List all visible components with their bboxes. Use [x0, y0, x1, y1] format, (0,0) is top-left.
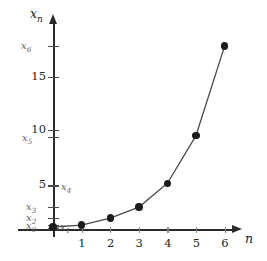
y-label-x1: x1	[60, 222, 70, 234]
data-point-5	[192, 132, 199, 139]
x-tick-5	[196, 227, 197, 233]
y-tick-x4	[48, 186, 59, 187]
y-label-x5-sub: 5	[28, 137, 33, 146]
x-label-4: 4	[160, 238, 176, 250]
y-tick-x2	[48, 218, 59, 219]
x-tick-4	[167, 227, 168, 233]
y-label-x6-sub: 6	[27, 45, 32, 54]
data-point-0	[49, 223, 56, 230]
x-axis-title: n	[245, 233, 253, 246]
y-axis-title-base: x	[30, 6, 37, 21]
x-label-3: 3	[131, 238, 147, 250]
y-label-15: 15	[26, 71, 46, 83]
x-tick-3	[139, 227, 140, 233]
data-point-6	[221, 42, 228, 49]
x-axis-arrow-icon	[232, 225, 242, 233]
y-tick-x6	[48, 46, 59, 47]
data-point-1	[78, 221, 85, 228]
data-point-2	[107, 214, 114, 221]
y-tick-x5	[48, 137, 59, 138]
y-label-x0-sub: 0	[32, 225, 37, 234]
x-tick-2	[110, 227, 111, 233]
data-point-4	[164, 180, 171, 187]
y-label-x1-sub: 1	[66, 226, 71, 235]
y-tick-15	[48, 77, 59, 78]
y-label-x4: x4	[61, 182, 71, 194]
x-tick-6	[225, 227, 226, 233]
data-point-3	[135, 203, 142, 210]
x-label-1: 1	[74, 238, 90, 250]
y-tick-10	[48, 130, 59, 131]
y-axis-title: xn	[30, 8, 43, 24]
x-label-2: 2	[103, 238, 119, 250]
y-label-x6: x6	[21, 41, 31, 53]
y-axis-arrow-icon	[49, 14, 57, 24]
y-label-x4-sub: 4	[67, 186, 72, 195]
y-label-x0: x0	[26, 221, 36, 233]
y-label-5: 5	[26, 179, 46, 191]
y-axis-title-sub: n	[37, 14, 43, 24]
x-label-5: 5	[188, 238, 204, 250]
x-label-6: 6	[217, 238, 233, 250]
y-tick-x3	[48, 207, 59, 208]
chart-figure: xn n x6 15 10 x5 5 x4 x3 x2 x1 x0	[0, 0, 267, 261]
y-label-x5: x5	[22, 133, 32, 145]
